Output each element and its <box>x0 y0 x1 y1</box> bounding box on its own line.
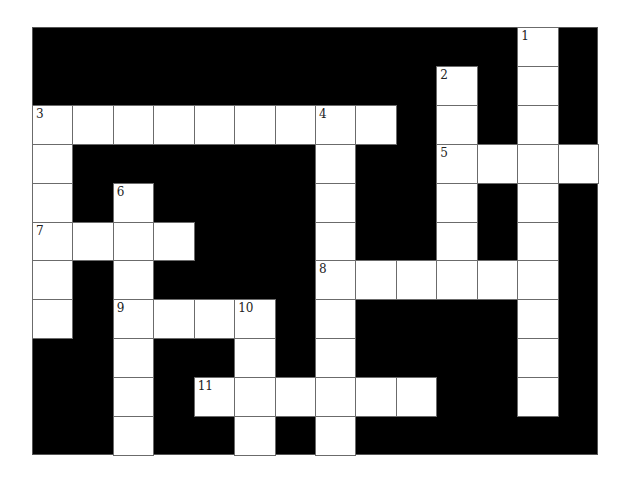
crossword-cell[interactable] <box>234 105 275 145</box>
crossword-cell[interactable] <box>355 105 396 145</box>
crossword-cell[interactable] <box>153 222 194 262</box>
crossword-cell[interactable] <box>436 260 477 300</box>
crossword-cell[interactable]: 9 <box>113 299 154 339</box>
crossword-cell[interactable] <box>315 377 356 417</box>
clue-number: 8 <box>319 263 327 276</box>
crossword-cell[interactable] <box>32 144 73 184</box>
crossword-cell[interactable] <box>396 260 437 300</box>
crossword-cell[interactable] <box>315 299 356 339</box>
crossword-cell[interactable] <box>517 260 558 300</box>
crossword-cell[interactable] <box>477 260 518 300</box>
crossword-cell[interactable] <box>153 299 194 339</box>
crossword-cell[interactable] <box>517 66 558 106</box>
clue-number: 10 <box>238 302 253 315</box>
crossword-cell[interactable] <box>315 416 356 456</box>
crossword-cell[interactable] <box>194 299 235 339</box>
clue-number: 6 <box>117 186 125 199</box>
crossword-cell[interactable] <box>436 222 477 262</box>
crossword-cell[interactable] <box>517 105 558 145</box>
crossword-cell[interactable] <box>113 377 154 417</box>
clue-number: 11 <box>198 380 213 393</box>
crossword-cell[interactable] <box>558 144 599 184</box>
crossword-cell[interactable] <box>153 105 194 145</box>
crossword-cell[interactable] <box>72 222 113 262</box>
crossword-cell[interactable] <box>517 222 558 262</box>
crossword-cell[interactable] <box>315 183 356 223</box>
crossword-cell[interactable] <box>436 105 477 145</box>
crossword-cell[interactable] <box>517 299 558 339</box>
clue-number: 2 <box>440 69 448 82</box>
crossword-cell[interactable] <box>113 416 154 456</box>
crossword-cell[interactable] <box>355 377 396 417</box>
crossword-cell[interactable]: 11 <box>194 377 235 417</box>
crossword-cell[interactable] <box>355 260 396 300</box>
crossword-cell[interactable]: 6 <box>113 183 154 223</box>
crossword-cell[interactable] <box>517 183 558 223</box>
crossword-cell[interactable] <box>315 222 356 262</box>
crossword-cell[interactable] <box>234 377 275 417</box>
crossword-cell[interactable]: 3 <box>32 105 73 145</box>
clue-number: 1 <box>521 30 529 43</box>
crossword-cell[interactable]: 5 <box>436 144 477 184</box>
crossword-cell[interactable]: 2 <box>436 66 477 106</box>
crossword-cell[interactable] <box>234 416 275 456</box>
crossword-cell[interactable] <box>275 105 316 145</box>
crossword-cell[interactable] <box>72 105 113 145</box>
clue-number: 7 <box>36 225 44 238</box>
crossword-cell[interactable] <box>113 260 154 300</box>
crossword-grid: 1253478691011 <box>32 27 598 455</box>
crossword-cell[interactable] <box>113 105 154 145</box>
crossword-cell[interactable] <box>517 144 558 184</box>
crossword-cell[interactable] <box>275 377 316 417</box>
clue-number: 5 <box>440 147 448 160</box>
crossword-cell[interactable] <box>517 377 558 417</box>
crossword-cell[interactable] <box>396 377 437 417</box>
crossword-cell[interactable]: 8 <box>315 260 356 300</box>
crossword-cell[interactable] <box>315 338 356 378</box>
crossword-cell[interactable] <box>32 183 73 223</box>
clue-number: 4 <box>319 108 327 121</box>
clue-number: 9 <box>117 302 125 315</box>
crossword-cell[interactable] <box>32 260 73 300</box>
crossword-cell[interactable]: 7 <box>32 222 73 262</box>
crossword-cell[interactable] <box>194 105 235 145</box>
crossword-cell[interactable]: 4 <box>315 105 356 145</box>
crossword-cell[interactable]: 1 <box>517 27 558 67</box>
crossword-cell[interactable] <box>477 144 518 184</box>
clue-number: 3 <box>36 108 44 121</box>
crossword-cell[interactable]: 10 <box>234 299 275 339</box>
crossword-cell[interactable] <box>436 183 477 223</box>
crossword-cell[interactable] <box>315 144 356 184</box>
crossword-cell[interactable] <box>32 299 73 339</box>
crossword-cell[interactable] <box>113 222 154 262</box>
crossword-cell[interactable] <box>234 338 275 378</box>
crossword-cell[interactable] <box>113 338 154 378</box>
crossword-cell[interactable] <box>517 338 558 378</box>
